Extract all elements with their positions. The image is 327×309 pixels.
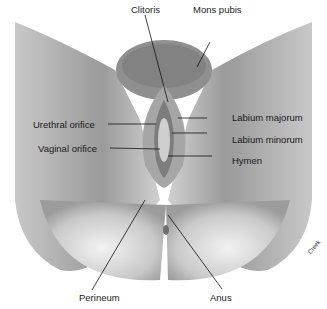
label-clitoris: Clitoris bbox=[131, 4, 160, 15]
anatomical-figure: Clitoris Mons pubis Labium majorum Labiu… bbox=[0, 0, 327, 309]
label-hymen: Hymen bbox=[232, 155, 262, 166]
label-perineum: Perineum bbox=[79, 292, 120, 303]
illustration bbox=[0, 0, 327, 309]
label-labium-minorum: Labium minorum bbox=[232, 134, 303, 145]
label-anus: Anus bbox=[210, 292, 232, 303]
label-vaginal-orifice: Vaginal orifice bbox=[38, 143, 97, 154]
label-urethral-orifice: Urethral orifice bbox=[33, 119, 95, 130]
label-labium-majorum: Labium majorum bbox=[232, 112, 303, 123]
label-mons-pubis: Mons pubis bbox=[193, 4, 242, 15]
